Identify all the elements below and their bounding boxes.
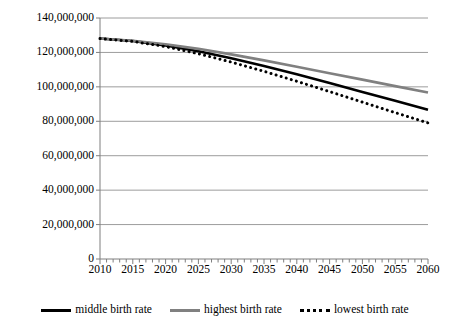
legend-line-icon-highest: [170, 305, 200, 315]
data-series-group: [100, 39, 428, 123]
legend-item-middle-birth-rate[interactable]: middle birth rate: [41, 304, 152, 316]
gridlines: [100, 18, 428, 225]
legend-label-lowest: lowest birth rate: [334, 304, 409, 316]
y-axis-major-ticks: [96, 18, 100, 259]
legend-label-highest: highest birth rate: [204, 304, 282, 316]
chart-plot: [0, 0, 450, 290]
series-line-lowest-birth-rate: [100, 39, 428, 123]
chart-page: 020,000,00040,000,00060,000,00080,000,00…: [0, 0, 450, 334]
legend-line-icon-middle: [41, 305, 71, 315]
legend-line-icon-lowest: [300, 305, 330, 315]
x-axis-labels: 2010201520202025203020352040204520502055…: [0, 264, 450, 286]
series-line-middle-birth-rate: [100, 39, 428, 110]
chart-legend: middle birth rate highest birth rate low…: [0, 298, 450, 322]
x-axis-tick-label: 2060: [406, 264, 450, 276]
legend-item-highest-birth-rate[interactable]: highest birth rate: [170, 304, 282, 316]
legend-label-middle: middle birth rate: [75, 304, 152, 316]
legend-item-lowest-birth-rate[interactable]: lowest birth rate: [300, 304, 409, 316]
